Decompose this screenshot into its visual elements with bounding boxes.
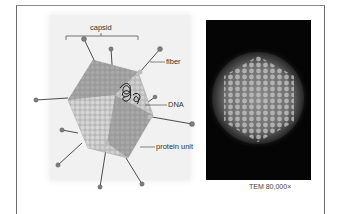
capsid-label: capsid [90, 24, 112, 32]
capsid-bracket [66, 33, 138, 40]
fiber-label: fiber [166, 58, 181, 66]
protein-unit-label: protein unit [156, 143, 193, 151]
tem-micrograph [206, 20, 311, 180]
dna-label: DNA [168, 101, 184, 109]
capsid-icosahedron [68, 60, 153, 158]
tem-caption: TEM 80,000× [249, 183, 291, 190]
virus-micrograph-image [206, 20, 311, 180]
